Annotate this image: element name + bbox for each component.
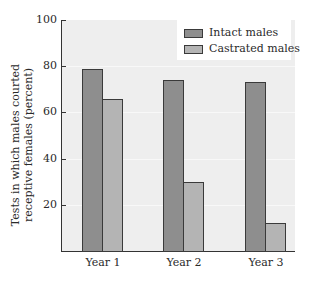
- bar-intact-males-year-3: [245, 82, 266, 252]
- y-tick-label: 100: [27, 14, 57, 26]
- legend-label-intact: Intact males: [209, 27, 278, 39]
- y-tick: [61, 205, 66, 206]
- y-tick: [61, 159, 66, 160]
- y-tick: [61, 66, 66, 67]
- x-tick-label: Year 1: [73, 256, 133, 269]
- legend-swatch-castrated: [184, 45, 203, 54]
- bar-castrated-males-year-3: [265, 223, 286, 252]
- legend: Intact males Castrated males: [177, 20, 291, 60]
- y-tick: [61, 20, 66, 21]
- y-axis-label: Tests in which males courted receptive f…: [9, 45, 35, 245]
- bar-castrated-males-year-2: [183, 182, 204, 252]
- y-axis: [61, 20, 62, 252]
- y-axis-label-line-1: Tests in which males courted: [9, 45, 22, 245]
- x-tick-label: Year 3: [236, 256, 296, 269]
- x-tick-label: Year 2: [154, 256, 214, 269]
- bar-castrated-males-year-1: [102, 99, 123, 252]
- legend-swatch-intact: [184, 29, 203, 38]
- bar-intact-males-year-1: [82, 69, 103, 252]
- y-tick: [61, 112, 66, 113]
- legend-label-castrated: Castrated males: [209, 43, 300, 55]
- gridline: [61, 66, 295, 67]
- bar-intact-males-year-2: [163, 80, 184, 252]
- y-axis-label-line-2: receptive females (percent): [22, 45, 35, 245]
